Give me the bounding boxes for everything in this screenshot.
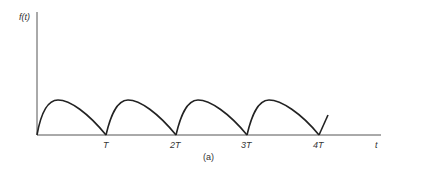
waveform-curve — [37, 100, 328, 135]
y-axis-label: f(t) — [19, 12, 30, 22]
figure-caption: (a) — [203, 152, 214, 162]
x-axis-label: t — [375, 140, 378, 150]
tick-label-3T: 3T — [241, 140, 252, 150]
tick-label-T: T — [103, 140, 109, 150]
tick-label-2T: 2T — [170, 140, 181, 150]
waveform-diagram — [0, 0, 426, 171]
tick-label-4T: 4T — [313, 140, 324, 150]
